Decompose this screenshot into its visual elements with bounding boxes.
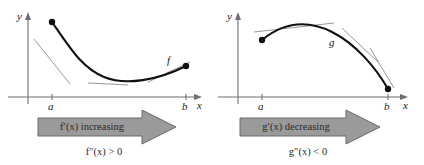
tangent-line — [342, 28, 378, 62]
endpoint-left — [49, 19, 55, 25]
banner-arrow-left: f′(x) increasing — [38, 110, 176, 144]
banner-arrow-right: g′(x) decreasing — [240, 110, 380, 144]
banner-label: g′(x) decreasing — [262, 121, 330, 133]
caption-label: g″(x) < 0 — [289, 146, 327, 158]
curve-g — [262, 24, 388, 89]
tangent-line — [88, 83, 128, 85]
curve-label-g: g — [329, 36, 335, 48]
endpoint-right — [385, 86, 391, 92]
tangent-lines-right — [254, 23, 394, 88]
curve-f — [52, 22, 186, 81]
y-axis-label: y — [16, 10, 22, 22]
caption-label: f″(x) > 0 — [86, 146, 123, 158]
x-tick-label-b: b — [384, 100, 390, 112]
axes-left — [8, 12, 202, 104]
x-axis-label: x — [196, 99, 202, 111]
x-tick-label-b: b — [182, 100, 188, 112]
y-axis-label: y — [226, 10, 232, 22]
tangent-line — [34, 39, 70, 84]
x-tick-label-a: a — [48, 100, 54, 112]
x-tick-label-a: a — [258, 100, 264, 112]
panel-g-concave-down: y x a b g g′(x) decreasing g″(x) < 0 — [212, 0, 424, 165]
y-axis-arrowhead — [235, 12, 241, 20]
endpoint-right — [183, 63, 189, 69]
y-axis-arrowhead — [25, 12, 31, 20]
endpoint-left — [259, 37, 265, 43]
banner-label: f′(x) increasing — [60, 121, 125, 133]
x-axis-label: x — [402, 99, 408, 111]
panel-f-concave-up: y x a b f f′(x) increasing f″(x) > 0 — [0, 0, 212, 165]
curve-label-f: f — [167, 54, 172, 66]
concavity-figure: y x a b f f′(x) increasing f″(x) > 0 — [0, 0, 424, 165]
